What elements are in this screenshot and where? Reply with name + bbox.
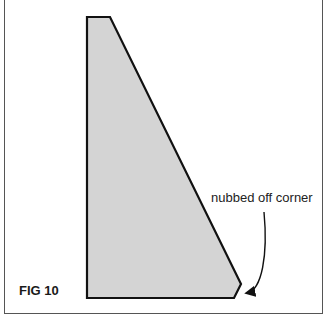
annotation-arrow-icon [247, 212, 265, 293]
wedge-shape [87, 17, 241, 298]
figure-label: FIG 10 [19, 283, 59, 298]
annotation-label: nubbed off corner [211, 190, 313, 205]
figure-drawing [0, 0, 330, 323]
